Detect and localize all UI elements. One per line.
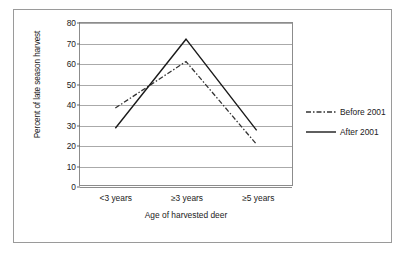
y-tick-mark [77,125,80,126]
chart-legend: Before 2001 After 2001 [306,102,392,142]
y-tick-label: 20 [67,141,76,151]
y-tick-mark [77,146,80,147]
y-tick-mark [77,166,80,167]
y-tick-label: 50 [67,80,76,90]
y-tick-mark [77,84,80,85]
series-line-before-2001 [115,61,256,144]
y-tick-mark [77,105,80,106]
x-tick-label: ≥5 years [242,193,274,203]
gridline [80,187,292,188]
gridline [80,85,292,86]
y-axis-title: Percent of late season harvest [33,10,42,160]
legend-swatch-dash-dot-icon [306,107,336,117]
y-tick-label: 0 [71,182,76,192]
legend-item-before-2001: Before 2001 [306,102,392,122]
series-lines [80,23,292,185]
legend-item-after-2001: After 2001 [306,122,392,142]
y-tick-mark [77,23,80,24]
y-tick-mark [77,187,80,188]
x-tick-label: ≥3 years [171,193,203,203]
legend-label-after-2001: After 2001 [340,127,379,137]
y-tick-label: 80 [67,18,76,28]
gridline [80,167,292,168]
gridline [80,23,292,24]
y-tick-label: 70 [67,39,76,49]
y-tick-label: 30 [67,121,76,131]
chart-figure: Percent of late season harvest 010203040… [13,9,392,243]
gridline [80,44,292,45]
y-tick-mark [77,64,80,65]
gridline [80,105,292,106]
x-tick-label: <3 years [100,193,132,203]
legend-label-before-2001: Before 2001 [340,107,386,117]
y-tick-label: 10 [67,162,76,172]
y-tick-label: 40 [67,100,76,110]
x-axis-title: Age of harvested deer [79,210,293,220]
y-tick-mark [77,43,80,44]
gridline [80,146,292,147]
legend-swatch-solid-icon [306,127,336,137]
plot-area: 01020304050607080 <3 years≥3 years≥5 yea… [79,22,293,186]
y-tick-label: 60 [67,59,76,69]
gridline [80,64,292,65]
gridline [80,126,292,127]
